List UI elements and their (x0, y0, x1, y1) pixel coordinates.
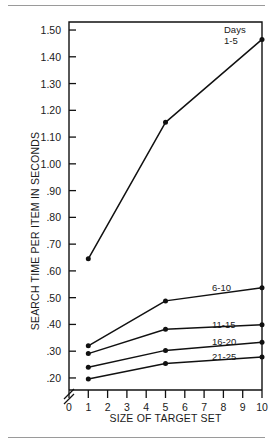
y-tick-label: .90 (25, 186, 61, 197)
axis-frame (69, 22, 262, 390)
x-tick-label: 2 (98, 402, 118, 413)
y-tick-label: .30 (25, 346, 61, 357)
x-tick-label: 1 (78, 402, 98, 413)
y-axis-title: SEARCH TIME PER ITEM IN SECONDS (29, 86, 41, 376)
series-lines (88, 39, 262, 379)
x-tick-label: 0 (59, 402, 79, 413)
y-tick-label: 1.10 (25, 132, 61, 143)
series-label-21-25: 21-25 (212, 351, 236, 362)
data-point (86, 343, 91, 348)
data-point (260, 322, 265, 327)
y-tick-label: 1.20 (25, 105, 61, 116)
x-tick-label: 3 (117, 402, 137, 413)
x-tick-label: 7 (194, 402, 214, 413)
series-markers (86, 37, 265, 382)
series-label-11-15: 11-15 (212, 319, 236, 330)
y-tick-label: 1.00 (25, 159, 61, 170)
data-point (163, 120, 168, 125)
data-point (260, 37, 265, 42)
x-tick-label: 10 (252, 402, 272, 413)
data-point (86, 365, 91, 370)
data-point (86, 377, 91, 382)
data-point (163, 327, 168, 332)
y-tick-label: .60 (25, 266, 61, 277)
series-line-1-5 (88, 39, 262, 258)
y-tick-label: 1.30 (25, 79, 61, 90)
y-tick-label: .70 (25, 239, 61, 250)
y-axis-ticks (69, 30, 76, 378)
x-tick-label: 6 (175, 402, 195, 413)
y-tick-label: 1.40 (25, 52, 61, 63)
data-point (86, 256, 91, 261)
x-axis-title: SIZE OF TARGET SET (69, 412, 262, 424)
y-tick-label: .40 (25, 319, 61, 330)
y-tick-label: 1.50 (25, 25, 61, 36)
x-axis-ticks (69, 390, 262, 398)
data-point (260, 285, 265, 290)
data-point (260, 355, 265, 360)
data-point (163, 298, 168, 303)
data-point (260, 340, 265, 345)
data-point (86, 351, 91, 356)
data-point (163, 361, 168, 366)
line-chart-figure: SEARCH TIME PER ITEM IN SECONDS SIZE OF … (0, 0, 273, 445)
series-label-6-10: 6-10 (212, 282, 231, 293)
legend-title: Days (224, 24, 246, 35)
x-tick-label: 8 (213, 402, 233, 413)
y-tick-label: .80 (25, 212, 61, 223)
series-label-1-5: 1-5 (224, 35, 238, 46)
data-point (163, 348, 168, 353)
x-tick-label: 5 (156, 402, 176, 413)
y-tick-label: .20 (25, 373, 61, 384)
x-tick-label: 4 (136, 402, 156, 413)
series-label-16-20: 16-20 (212, 336, 236, 347)
y-tick-label: .50 (25, 293, 61, 304)
x-tick-label: 9 (233, 402, 253, 413)
